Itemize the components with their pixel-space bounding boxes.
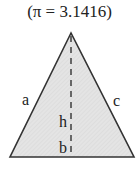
side-a-label: a [22,91,29,108]
height-h-label: h [59,113,67,130]
side-c-label: c [113,92,120,109]
triangle-diagram: a c h b [0,0,139,176]
base-b-label: b [59,139,67,156]
